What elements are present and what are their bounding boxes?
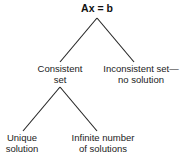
decision-tree-diagram: Ax = b Consistent set Inconsistent set— …	[0, 0, 181, 161]
root-label: Ax = b	[81, 3, 113, 14]
edge-root-to-consistent	[60, 18, 97, 62]
edge-consistent-to-unique	[23, 87, 60, 131]
node-label-line1: Unique	[6, 132, 39, 143]
edge-root-to-inconsistent	[97, 18, 134, 62]
node-label-line2: of solutions	[72, 143, 135, 154]
node-label-line1: Consistent	[38, 63, 83, 74]
node-unique-solution: Unique solution	[6, 132, 39, 154]
edge-consistent-to-infinite	[60, 87, 97, 131]
node-label-line2: set	[38, 74, 83, 85]
root-node-equation: Ax = b	[81, 3, 113, 14]
node-consistent-set: Consistent set	[38, 63, 83, 85]
node-inconsistent-set: Inconsistent set— no solution	[103, 63, 179, 85]
node-infinite-solutions: Infinite number of solutions	[72, 132, 135, 154]
node-label-line2: solution	[6, 143, 39, 154]
node-label-line1: Infinite number	[72, 132, 135, 143]
node-label-line2: no solution	[103, 74, 179, 85]
node-label-line1: Inconsistent set—	[103, 63, 179, 74]
